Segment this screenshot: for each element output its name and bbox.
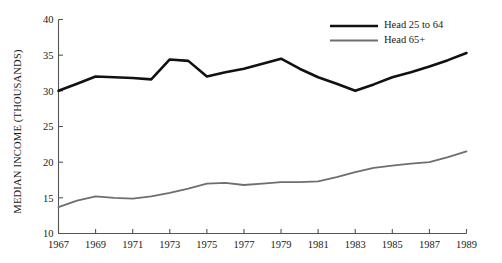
y-tick-label: 35 [43,50,54,61]
y-tick-label: 25 [43,121,54,132]
x-tick-label: 1967 [48,239,69,250]
y-tick-label: 20 [43,157,54,168]
x-tick-label: 1973 [159,239,180,250]
x-tick-label: 1983 [345,239,366,250]
median-income-line-chart: MEDIAN INCOME (THOUSANDS) 10152025303540… [0,0,502,263]
x-tick-label: 1975 [196,239,217,250]
x-tick-label: 1977 [233,239,254,250]
plot-area: 10152025303540 1967196919711973197519771… [0,0,502,263]
x-tick-label: 1969 [85,239,106,250]
y-axis-ticks: 10152025303540 [43,14,63,239]
y-tick-label: 30 [43,86,54,97]
x-tick-label: 1971 [122,239,143,250]
y-tick-label: 40 [43,14,54,25]
y-tick-label: 15 [43,193,54,204]
data-series [59,53,467,207]
x-tick-label: 1985 [382,239,403,250]
x-axis-ticks: 1967196919711973197519771979198119831985… [48,229,477,250]
axes [59,20,467,234]
legend-label: Head 65+ [384,34,425,45]
series-line [59,151,467,207]
series-line [59,53,467,91]
x-tick-label: 1979 [271,239,292,250]
legend-label: Head 25 to 64 [384,19,444,30]
x-tick-label: 1987 [419,239,440,250]
x-tick-label: 1989 [456,239,477,250]
chart-legend: Head 25 to 64Head 65+ [330,19,444,45]
x-tick-label: 1981 [308,239,329,250]
